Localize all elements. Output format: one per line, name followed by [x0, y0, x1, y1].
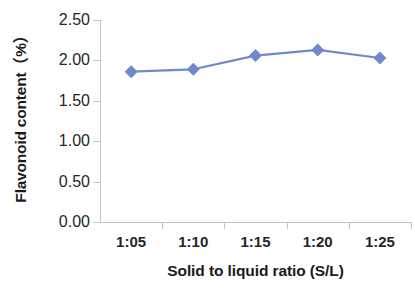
y-axis-tick-mark [93, 222, 100, 223]
x-axis-tick-label: 1:10 [158, 233, 228, 250]
x-axis-tick-mark [162, 222, 163, 229]
y-axis-tick-mark [93, 60, 100, 61]
data-point-marker [373, 51, 386, 64]
series-marker-group [125, 43, 387, 78]
y-axis-tick-mark [93, 101, 100, 102]
x-axis-tick-mark [349, 222, 350, 229]
x-axis-title: Solid to liquid ratio (S/L) [100, 262, 411, 280]
x-axis-tick-label: 1:05 [96, 233, 166, 250]
data-point-marker [249, 49, 262, 62]
y-axis-tick-mark [93, 182, 100, 183]
x-axis-tick-mark [411, 222, 412, 229]
y-axis-tick-mark [93, 141, 100, 142]
data-point-marker [311, 43, 324, 56]
x-axis-tick-label: 1:25 [345, 233, 415, 250]
x-axis-tick-mark [287, 222, 288, 229]
data-point-marker [187, 63, 200, 76]
x-axis-tick-label-group: 1:051:101:151:201:25 [0, 233, 411, 255]
x-axis-tick-label: 1:15 [221, 233, 291, 250]
data-point-marker [125, 65, 138, 78]
x-axis-tick-label: 1:20 [283, 233, 353, 250]
y-axis-tick-mark [93, 20, 100, 21]
x-axis-tick-mark [224, 222, 225, 229]
